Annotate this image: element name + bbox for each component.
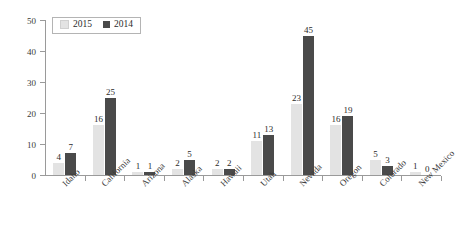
bar-group: 1625 — [85, 20, 125, 175]
y-tick-label: 20 — [27, 109, 36, 118]
bar-group: 47 — [45, 20, 85, 175]
bar-group: 1113 — [243, 20, 283, 175]
bar-value-label: 16 — [94, 115, 103, 124]
bar-value-label: 2 — [227, 159, 232, 168]
bar-group: 11 — [124, 20, 164, 175]
y-tick-label: 40 — [27, 47, 36, 56]
bar-chart: 01020304050 20152014 4716251125221113234… — [0, 0, 455, 236]
bar-value-label: 4 — [57, 153, 62, 162]
bar-2015[interactable]: 11 — [251, 141, 262, 175]
x-tick — [441, 176, 442, 181]
x-tick — [322, 176, 323, 181]
bar-value-label: 16 — [331, 115, 340, 124]
bar-value-label: 2 — [215, 159, 220, 168]
x-tick — [401, 176, 402, 181]
x-tick — [283, 176, 284, 181]
bar-value-label: 13 — [264, 125, 273, 134]
bar-2015[interactable]: 1 — [410, 172, 421, 175]
y-tick-label: 10 — [27, 140, 36, 149]
bar-group: 2345 — [283, 20, 323, 175]
bar-value-label: 2 — [175, 159, 180, 168]
bar-value-label: 25 — [106, 88, 115, 97]
x-tick — [164, 176, 165, 181]
bar-value-label: 1 — [136, 162, 141, 171]
bar-value-label: 23 — [292, 94, 301, 103]
bar-2014[interactable]: 45 — [303, 36, 314, 176]
x-tick — [203, 176, 204, 181]
bar-value-label: 1 — [413, 162, 418, 171]
bar-2015[interactable]: 1 — [132, 172, 143, 175]
bar-value-label: 5 — [187, 150, 192, 159]
bar-2014[interactable]: 25 — [105, 98, 116, 176]
bar-group: 1619 — [322, 20, 362, 175]
bar-value-label: 3 — [385, 156, 390, 165]
bar-group: 25 — [164, 20, 204, 175]
y-tick-label: 30 — [27, 78, 36, 87]
bar-value-label: 45 — [304, 26, 313, 35]
bar-2015[interactable]: 5 — [370, 160, 381, 176]
y-tick: 0 — [40, 175, 45, 176]
bar-value-label: 5 — [373, 150, 378, 159]
bar-2015[interactable]: 16 — [330, 125, 341, 175]
bar-value-label: 7 — [69, 143, 74, 152]
plot-area: 4716251125221113234516195310 — [45, 20, 441, 175]
bar-2015[interactable]: 16 — [93, 125, 104, 175]
bar-2015[interactable]: 2 — [212, 169, 223, 175]
y-tick-label: 50 — [27, 16, 36, 25]
bar-group: 22 — [203, 20, 243, 175]
bar-2015[interactable]: 4 — [53, 163, 64, 175]
bar-group: 10 — [401, 20, 441, 175]
x-tick — [362, 176, 363, 181]
bar-2015[interactable]: 2 — [172, 169, 183, 175]
x-tick — [124, 176, 125, 181]
y-tick-label: 0 — [32, 171, 37, 180]
x-tick — [243, 176, 244, 181]
bar-group: 53 — [362, 20, 402, 175]
bar-2015[interactable]: 23 — [291, 104, 302, 175]
bar-value-label: 19 — [343, 106, 352, 115]
bar-value-label: 11 — [252, 131, 261, 140]
x-tick — [85, 176, 86, 181]
